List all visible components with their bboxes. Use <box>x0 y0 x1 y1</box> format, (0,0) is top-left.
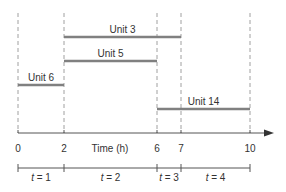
tick-label: 2 <box>61 143 67 154</box>
tick-label: 0 <box>15 143 21 154</box>
period-timeline: t = 1t = 2t = 3t = 4 <box>18 164 250 183</box>
period-label: t = 1 <box>31 172 51 183</box>
unit-label: Unit 6 <box>28 72 55 83</box>
axis-arrow-icon <box>264 130 274 137</box>
period-label: t = 3 <box>159 172 179 183</box>
tick-label: 10 <box>244 143 256 154</box>
tick-label: 7 <box>178 143 184 154</box>
period-label: t = 2 <box>101 172 121 183</box>
unit-bars: Unit 3Unit 5Unit 6Unit 14 <box>18 24 250 109</box>
period-label: t = 4 <box>206 172 226 183</box>
time-axis: 026710Time (h) <box>15 130 274 155</box>
unit-label: Unit 5 <box>97 48 124 59</box>
unit-schedule-diagram: Unit 3Unit 5Unit 6Unit 14 026710Time (h)… <box>0 0 286 192</box>
tick-label: 6 <box>154 143 160 154</box>
unit-label: Unit 14 <box>188 96 220 107</box>
axis-title: Time (h) <box>92 143 129 154</box>
unit-label: Unit 3 <box>109 24 136 35</box>
